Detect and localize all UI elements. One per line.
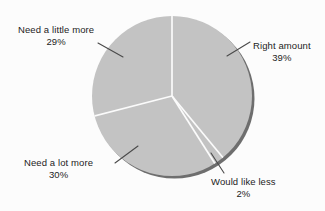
pie-label-need-lot-more-percent: 30% bbox=[24, 169, 93, 181]
pie-chart-figure: Right amount 39% Need a little more 29% … bbox=[0, 0, 325, 211]
pie-label-need-little-more: Need a little more 29% bbox=[18, 24, 94, 47]
pie-label-would-like-less-name: Would like less bbox=[211, 176, 276, 188]
pie-label-right-amount-percent: 39% bbox=[253, 52, 311, 64]
pie-label-right-amount: Right amount 39% bbox=[253, 40, 311, 63]
pie-label-need-lot-more-name: Need a lot more bbox=[24, 157, 93, 169]
pie-label-need-little-more-percent: 29% bbox=[18, 36, 94, 48]
pie-label-need-little-more-name: Need a little more bbox=[18, 24, 94, 36]
pie-label-would-like-less: Would like less 2% bbox=[211, 176, 276, 199]
pie-label-right-amount-name: Right amount bbox=[253, 40, 311, 52]
pie-label-would-like-less-percent: 2% bbox=[211, 188, 276, 200]
pie-label-need-lot-more: Need a lot more 30% bbox=[24, 157, 93, 180]
